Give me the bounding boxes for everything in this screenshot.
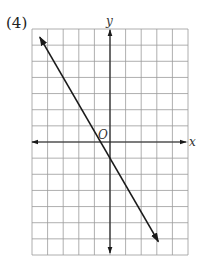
coordinate-plane: x y O — [0, 0, 209, 263]
x-axis-label: x — [189, 135, 196, 149]
origin-label: O — [98, 128, 108, 142]
y-axis-label: y — [105, 14, 113, 28]
